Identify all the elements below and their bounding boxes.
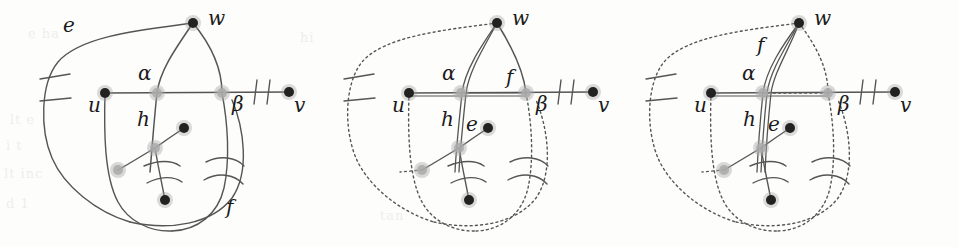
label-u: u bbox=[392, 93, 405, 117]
label-f: f bbox=[504, 65, 517, 89]
edge-e-outer bbox=[44, 23, 193, 222]
label-e: e bbox=[63, 13, 75, 37]
tick-left-upper bbox=[646, 74, 676, 79]
label-h: h bbox=[441, 107, 454, 131]
crossing-alpha bbox=[456, 88, 466, 98]
tick-lobe-lower bbox=[508, 175, 547, 184]
vertex-w bbox=[492, 18, 502, 28]
tick-h-lower bbox=[753, 178, 788, 183]
label-alpha: α bbox=[138, 61, 152, 85]
label-alpha: α bbox=[742, 61, 756, 85]
tick-h-upper bbox=[750, 162, 786, 167]
crossing-h bbox=[756, 143, 766, 153]
edge-inner-right-arm bbox=[778, 93, 834, 231]
tick-left-upper bbox=[40, 74, 70, 79]
label-h: h bbox=[743, 107, 756, 131]
label-w: w bbox=[208, 6, 225, 30]
tick-h-upper bbox=[448, 162, 484, 167]
crossing-e-low bbox=[113, 165, 123, 175]
vertex-u bbox=[706, 88, 716, 98]
tick-h-upper bbox=[144, 162, 180, 167]
vertex-u bbox=[100, 88, 110, 98]
edge-f-strand-c bbox=[765, 23, 799, 172]
label-u: u bbox=[694, 93, 707, 117]
label-f: f bbox=[224, 195, 237, 219]
vertex-mid-upper bbox=[483, 123, 493, 133]
vertex-v bbox=[588, 87, 598, 97]
crossing-e-low bbox=[417, 165, 427, 175]
panel-3: wfαuheβv bbox=[646, 6, 912, 231]
edge-spine-u-v bbox=[105, 92, 289, 93]
vertex-w bbox=[188, 18, 198, 28]
crossing-h bbox=[454, 143, 464, 153]
label-e: e bbox=[466, 112, 478, 136]
label-alpha: α bbox=[442, 61, 456, 85]
crossing-beta bbox=[217, 88, 227, 98]
vertex-mid-upper bbox=[785, 123, 795, 133]
crossing-alpha bbox=[152, 88, 162, 98]
vertex-mid-lower bbox=[160, 195, 170, 205]
crossing-beta bbox=[521, 88, 531, 98]
edge-w-to-beta bbox=[193, 23, 222, 93]
vertex-mid-lower bbox=[766, 195, 776, 205]
label-f: f bbox=[755, 33, 768, 57]
vertex-u bbox=[404, 88, 414, 98]
tick-left-upper bbox=[344, 74, 374, 79]
label-v: v bbox=[598, 93, 610, 117]
label-e: e bbox=[768, 112, 780, 136]
tick-lobe-upper bbox=[510, 158, 548, 166]
tick-h-lower bbox=[451, 178, 486, 183]
tick-lobe-upper bbox=[812, 158, 850, 166]
crossing-beta bbox=[823, 88, 833, 98]
vertex-v bbox=[890, 87, 900, 97]
label-v: v bbox=[294, 93, 306, 117]
figure-canvas: ewαuhβvfwαfuheβvwfαuheβv bbox=[0, 0, 959, 247]
edge-spine-u-v bbox=[409, 92, 593, 93]
edge-inner-right-arm bbox=[476, 93, 532, 231]
ghost-text: d 1 bbox=[6, 196, 30, 211]
ghost-text: tan bbox=[380, 208, 404, 223]
edge-spine-u-v bbox=[711, 92, 895, 93]
tick-h-lower bbox=[147, 178, 182, 183]
tick-lobe-lower bbox=[810, 175, 849, 184]
crossing-e-low bbox=[719, 165, 729, 175]
panel-1: ewαuhβvf bbox=[40, 6, 306, 231]
ghost-text: lt inc bbox=[4, 166, 43, 181]
ghost-text: hi bbox=[300, 30, 315, 45]
ghost-text: e ha bbox=[28, 26, 60, 41]
ghost-text: lt e bbox=[10, 112, 35, 127]
edge-w-beta-dotted bbox=[799, 23, 828, 93]
crossing-h bbox=[150, 143, 160, 153]
ghost-text: i t bbox=[6, 138, 23, 153]
crossing-alpha bbox=[758, 88, 768, 98]
label-beta: β bbox=[837, 92, 850, 116]
tick-lobe-lower bbox=[204, 175, 243, 184]
vertex-v bbox=[284, 87, 294, 97]
vertex-mid-upper bbox=[179, 123, 189, 133]
panel-2: wαfuheβv bbox=[344, 6, 610, 231]
label-w: w bbox=[814, 6, 831, 30]
label-u: u bbox=[88, 93, 101, 117]
label-h: h bbox=[137, 107, 150, 131]
vertex-mid-lower bbox=[464, 195, 474, 205]
label-beta: β bbox=[535, 92, 548, 116]
tick-lobe-upper bbox=[206, 158, 244, 166]
label-v: v bbox=[900, 93, 912, 117]
vertex-w bbox=[794, 18, 804, 28]
label-beta: β bbox=[231, 92, 244, 116]
label-w: w bbox=[512, 6, 529, 30]
graph-figure: ewαuhβvfwαfuheβvwfαuheβve halt ei tlt in… bbox=[0, 0, 959, 247]
